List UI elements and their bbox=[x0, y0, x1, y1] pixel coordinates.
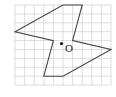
grid-figure: O bbox=[0, 0, 116, 97]
center-point-o bbox=[60, 42, 63, 45]
center-label-o: O bbox=[65, 42, 73, 54]
grid-lines bbox=[15, 5, 111, 85]
